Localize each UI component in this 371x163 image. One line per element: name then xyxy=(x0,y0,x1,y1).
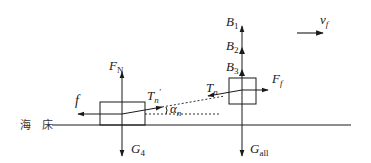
gravity-left-label: G4 xyxy=(131,141,145,158)
tension-left-label: Tn' xyxy=(147,87,162,105)
angle-label: αn xyxy=(170,101,182,118)
normal-force-label: FN xyxy=(108,58,124,75)
gravity-right-label: Gall xyxy=(250,141,269,158)
tension-left-arrow xyxy=(122,107,162,114)
buoyancy-3-label: B3 xyxy=(226,59,239,76)
tension-right-label: Tn xyxy=(206,80,218,97)
buoyancy-2-arrowhead xyxy=(239,47,245,54)
buoyancy-2-label: B2 xyxy=(226,38,238,55)
buoyancy-3-arrowhead xyxy=(239,69,245,76)
drag-label: Ff xyxy=(271,71,284,88)
buoyancy-1-label: B1 xyxy=(226,14,238,31)
friction-label: f xyxy=(75,93,81,108)
velocity-label: vf xyxy=(320,12,330,29)
angle-arc xyxy=(166,107,167,114)
force-diagram: 海 床 vf FN G4 f Tn' αn B1 B2 B3 Ff Tn Gal… xyxy=(0,0,371,163)
seabed-label: 海 床 xyxy=(20,118,58,132)
